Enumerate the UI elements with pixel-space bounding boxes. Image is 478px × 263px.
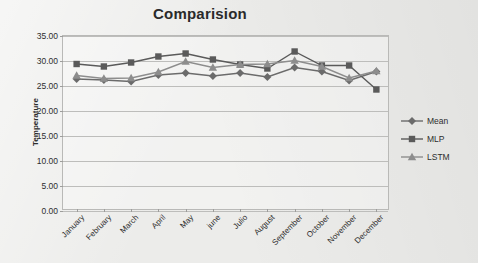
y-tick-mark [60,211,63,212]
data-point-marker [408,117,416,125]
data-point-marker [182,50,188,56]
y-tick-label: 5.00 [41,181,58,191]
chart-legend: MeanMLPLSTM [400,112,450,166]
y-tick-label: 20.00 [37,106,58,116]
data-point-marker [346,62,352,68]
data-point-marker [210,56,216,62]
legend-item-label: MLP [427,134,444,144]
comparison-line-chart: Comparision Temperature 0.005.0010.0015.… [0,0,478,263]
x-tick-label: May [178,213,195,230]
x-tick-label: August [253,213,277,237]
legend-item-label: LSTM [427,152,450,162]
data-point-marker [128,59,134,65]
data-point-marker [291,64,299,72]
legend-item-mlp[interactable]: MLP [400,130,450,148]
data-point-marker [290,56,298,64]
chart-title: Comparision [0,5,400,22]
y-tick-label: 0.00 [41,206,58,216]
data-point-marker [236,69,244,77]
data-point-marker [291,48,297,54]
data-point-marker [72,71,80,79]
square-marker-icon [400,133,424,145]
triangle-marker-icon [400,151,424,163]
data-point-marker [101,63,107,69]
series-line [77,68,377,82]
y-tick-label: 25.00 [37,81,58,91]
legend-item-mean[interactable]: Mean [400,112,450,130]
series-mean [73,64,381,86]
y-tick-label: 15.00 [37,131,58,141]
data-point-marker [182,69,190,77]
x-tick-label: October [305,213,331,239]
data-point-marker [155,53,161,59]
series-lstm [72,56,380,82]
plot-area: Temperature 0.005.0010.0015.0020.0025.00… [62,35,389,210]
data-point-marker [409,136,415,142]
gridline [63,211,388,212]
data-point-marker [181,57,189,65]
x-tick-label: January [59,213,85,239]
x-tick-label: December [353,213,385,245]
data-point-marker [209,72,217,80]
x-tick-label: February [84,213,113,242]
data-point-marker [263,73,271,81]
series-mlp [73,48,379,92]
data-point-marker [73,61,79,67]
x-tick-label: june [205,213,222,230]
legend-item-lstm[interactable]: LSTM [400,148,450,166]
x-tick-label: March [118,213,140,235]
y-tick-label: 10.00 [37,156,58,166]
y-tick-label: 35.00 [37,31,58,41]
legend-item-label: Mean [427,116,448,126]
x-tick-label: April [150,213,168,231]
series-layer [63,36,390,211]
diamond-marker-icon [400,115,424,127]
x-tick-label: Julio [231,213,249,231]
data-point-marker [373,86,379,92]
y-tick-label: 30.00 [37,56,58,66]
